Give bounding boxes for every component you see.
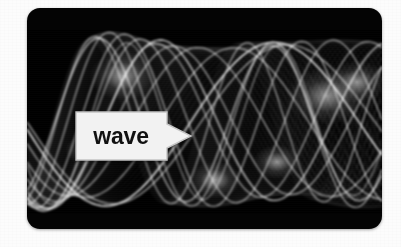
- wave-callout-tag[interactable]: wave: [75, 111, 193, 161]
- wave-callout-label: wave: [75, 111, 167, 161]
- wave-visualization-card[interactable]: wave: [27, 8, 382, 229]
